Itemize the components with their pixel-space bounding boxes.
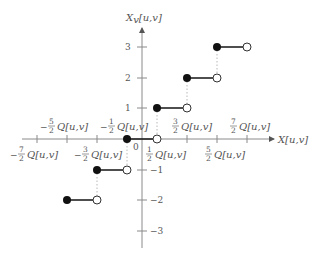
svg-text:5: 5	[49, 117, 54, 126]
svg-text:1: 1	[125, 103, 131, 113]
svg-text:−: −	[100, 122, 108, 132]
svg-text:Q[u,v]: Q[u,v]	[155, 149, 186, 160]
svg-text:2: 2	[83, 154, 88, 163]
svg-text:Q[u,v]: Q[u,v]	[214, 149, 245, 160]
svg-text:−2: −2	[150, 195, 163, 205]
svg-text:7: 7	[19, 145, 24, 154]
svg-text:2: 2	[49, 126, 54, 135]
x-tick-label-lower-3: 5 2 Q[u,v]	[205, 145, 245, 163]
svg-text:Q[u,v]: Q[u,v]	[91, 149, 122, 160]
svg-text:−: −	[40, 122, 48, 132]
quantizer-diagram: Xv[u,v] X[u,v] 0 3 2 1 −1 −2 −3 − 5 2 Q[…	[0, 0, 314, 258]
svg-text:1: 1	[147, 145, 152, 154]
svg-text:3: 3	[83, 145, 88, 154]
x-tick-label-upper-0: − 5 2 Q[u,v]	[40, 117, 88, 135]
svg-text:2: 2	[147, 154, 152, 163]
x-tick-label-upper-3: 7 2 Q[u,v]	[230, 117, 270, 135]
svg-text:−1: −1	[150, 165, 163, 175]
x-tick-label-lower-1: − 3 2 Q[u,v]	[74, 145, 122, 163]
svg-text:2: 2	[109, 126, 114, 135]
svg-text:Q[u,v]: Q[u,v]	[239, 121, 270, 132]
svg-text:−3: −3	[150, 226, 164, 236]
x-tick-label-lower-0: − 7 2 Q[u,v]	[10, 145, 58, 163]
svg-text:Q[u,v]: Q[u,v]	[117, 121, 148, 132]
svg-text:1: 1	[109, 117, 114, 126]
svg-text:3: 3	[125, 42, 131, 52]
origin-label: 0	[133, 142, 139, 152]
svg-text:−: −	[10, 150, 18, 160]
svg-text:2: 2	[125, 73, 131, 83]
x-tick-label-lower-2: 1 2 Q[u,v]	[146, 145, 186, 163]
svg-text:Q[u,v]: Q[u,v]	[27, 149, 58, 160]
y-axis-label: Xv[u,v]	[125, 12, 162, 25]
svg-text:5: 5	[206, 145, 211, 154]
svg-text:2: 2	[173, 126, 178, 135]
svg-text:2: 2	[206, 154, 211, 163]
x-axis-label: X[u,v]	[277, 134, 308, 145]
svg-text:7: 7	[231, 117, 236, 126]
svg-text:Q[u,v]: Q[u,v]	[57, 121, 88, 132]
x-tick-label-upper-2: 3 2 Q[u,v]	[172, 117, 212, 135]
svg-text:2: 2	[19, 154, 24, 163]
svg-text:−: −	[74, 150, 82, 160]
svg-text:2: 2	[231, 126, 236, 135]
svg-text:Q[u,v]: Q[u,v]	[181, 121, 212, 132]
x-tick-label-upper-1: − 1 2 Q[u,v]	[100, 117, 148, 135]
svg-text:3: 3	[173, 117, 178, 126]
